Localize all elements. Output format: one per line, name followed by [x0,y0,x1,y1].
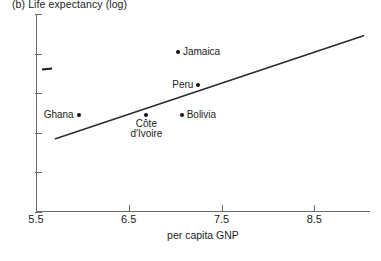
data-point-label: Ghana [44,110,79,121]
x-tick-label: 6.5 [109,214,149,225]
data-point-label: Bolivia [182,110,216,121]
x-tick-label: 7.5 [202,214,242,225]
data-point-label: Peru [172,80,198,91]
data-point-label: Jamaica [178,46,220,57]
page-title: (b) Life expectancy (log) [12,0,127,10]
plot-area: 3.53.73.94.14.34.5 5.56.57.58.5 GhanaCôt… [36,14,370,212]
x-tick-label: 8.5 [294,214,334,225]
figure-panel-b: (b) Life expectancy (log) 3.53.73.94.14.… [0,0,381,261]
data-point-label: Côte d'Ivoire [130,115,162,140]
x-tick-label: 5.5 [16,214,56,225]
x-axis-title: per capita GNP [36,229,370,241]
